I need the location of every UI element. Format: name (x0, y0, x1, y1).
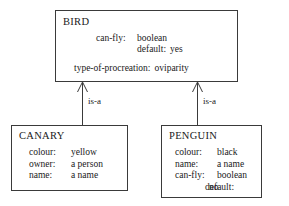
slot-name-canary-colour: colour: (29, 147, 71, 159)
slot-value-penguin-can-fly: boolean (217, 170, 247, 182)
slot-row-penguin-can-fly: can-fly: boolean (175, 170, 247, 182)
slot-list-penguin: colour: black name: a name can-fly: bool… (175, 147, 247, 193)
slot-row-bird-default: default: yes (137, 44, 183, 56)
slot-name-penguin-colour: colour: (175, 147, 217, 159)
slot-name-penguin-can-fly: can-fly: (175, 170, 217, 182)
slot-value-penguin-default: no (205, 182, 219, 194)
slot-row-penguin-name: name: a name (175, 159, 247, 171)
isa-label-penguin-to-bird: is-a (203, 96, 216, 106)
frame-title-penguin: PENGUIN (169, 130, 217, 142)
slot-value-penguin-name: a name (217, 159, 244, 171)
slot-row-bird-type-of-procreation: type-of-procreation: oviparity (74, 63, 189, 75)
slot-name-bird-can-fly: can-fly: (96, 33, 137, 45)
slot-value-canary-colour: yellow (71, 147, 97, 159)
slot-list-canary: colour: yellow owner: a person name: a n… (29, 147, 103, 182)
frame-hierarchy-diagram: BIRD can-fly: boolean default: yes type-… (0, 0, 289, 206)
frame-title-canary: CANARY (19, 130, 65, 142)
frame-box-penguin: PENGUIN colour: black name: a name can-f… (161, 125, 262, 198)
slot-row-canary-owner: owner: a person (29, 159, 103, 171)
frame-box-bird: BIRD can-fly: boolean default: yes type-… (55, 10, 238, 82)
slot-value-bird-default: yes (166, 44, 183, 56)
slot-value-bird-can-fly: boolean (137, 33, 167, 45)
slot-name-canary-owner: owner: (29, 159, 71, 171)
slot-name-canary-name: name: (29, 170, 71, 182)
frame-title-bird: BIRD (63, 16, 89, 28)
slot-value-bird-type-of-procreation: oviparity (155, 63, 189, 75)
slot-row-penguin-colour: colour: black (175, 147, 247, 159)
isa-label-canary-to-bird: is-a (88, 96, 101, 106)
frame-box-canary: CANARY colour: yellow owner: a person na… (11, 125, 128, 191)
slot-row-canary-colour: colour: yellow (29, 147, 103, 159)
slot-row-penguin-default: default: no (175, 182, 247, 194)
slot-value-canary-owner: a person (71, 159, 103, 171)
slot-value-penguin-colour: black (217, 147, 238, 159)
slot-name-bird-default: default: (137, 44, 166, 56)
slot-name-bird-type-of-procreation: type-of-procreation: (74, 63, 155, 75)
slot-row-canary-name: name: a name (29, 170, 103, 182)
slot-name-penguin-name: name: (175, 159, 217, 171)
slot-row-bird-can-fly: can-fly: boolean (96, 33, 167, 45)
slot-value-canary-name: a name (71, 170, 98, 182)
